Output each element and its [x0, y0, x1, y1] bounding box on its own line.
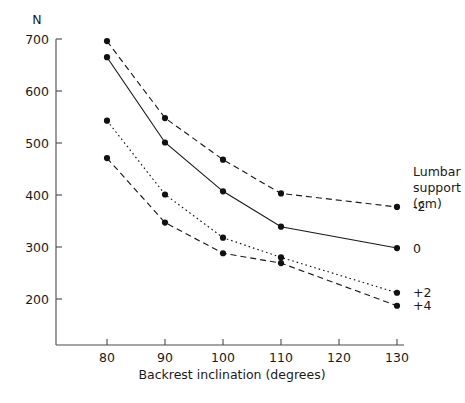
data-point	[278, 260, 284, 266]
legend-label-0: 0	[413, 241, 421, 256]
legend-title-line-1: Lumbar	[413, 164, 461, 179]
data-series-layer	[104, 38, 400, 309]
x-axis-ticks: 8090100110120130	[99, 339, 409, 365]
data-point	[394, 204, 400, 210]
data-point	[104, 38, 110, 44]
x-tick-label: 80	[99, 350, 115, 365]
legend-entry-list: -20+2+4	[413, 199, 431, 313]
y-tick-label: 600	[25, 84, 49, 99]
series-line-0	[107, 57, 397, 248]
data-point	[220, 157, 226, 163]
x-tick-label: 90	[157, 350, 173, 365]
data-point	[278, 190, 284, 196]
chart-legend: Lumbar support (cm) -20+2+4	[413, 164, 461, 313]
x-tick-label: 110	[269, 350, 293, 365]
data-point	[162, 219, 168, 225]
series-line-plus4	[107, 158, 397, 306]
data-point	[162, 139, 168, 145]
data-point	[394, 290, 400, 296]
x-axis-title: Backrest inclination (degrees)	[138, 367, 325, 382]
line-chart-plot: N 200300400500600700 8090100110120130 Lu…	[0, 0, 465, 403]
y-tick-label: 200	[25, 292, 49, 307]
data-point	[162, 115, 168, 121]
data-point	[220, 250, 226, 256]
data-point	[220, 188, 226, 194]
data-point	[104, 54, 110, 60]
y-tick-label: 400	[25, 188, 49, 203]
data-point	[394, 245, 400, 251]
data-point	[220, 235, 226, 241]
y-tick-label: 500	[25, 136, 49, 151]
data-point	[104, 155, 110, 161]
x-tick-label: 130	[385, 350, 409, 365]
data-point	[104, 118, 110, 124]
y-tick-label: 700	[25, 32, 49, 47]
x-tick-label: 120	[327, 350, 351, 365]
data-point	[278, 224, 284, 230]
y-axis-unit-label: N	[32, 12, 41, 27]
series-line--2	[107, 41, 397, 207]
y-tick-label: 300	[25, 240, 49, 255]
x-tick-label: 100	[211, 350, 235, 365]
data-point	[278, 254, 284, 260]
chart-figure: N 200300400500600700 8090100110120130 Lu…	[0, 0, 465, 403]
legend-label-plus4: +4	[413, 298, 431, 313]
data-point	[394, 303, 400, 309]
legend-label--2: -2	[413, 199, 425, 214]
legend-title-line-2: support	[413, 180, 461, 195]
data-point	[162, 191, 168, 197]
